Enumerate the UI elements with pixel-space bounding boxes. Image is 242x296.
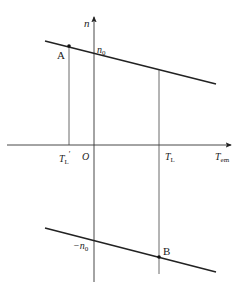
point-a-label: A: [57, 49, 65, 61]
minus-n0-label: −n0: [73, 240, 89, 253]
point-a-marker: [67, 44, 71, 48]
origin-label: O: [82, 151, 89, 162]
lower-characteristic-line: [45, 228, 216, 272]
upper-characteristic-line: [45, 41, 216, 84]
tl-prime-label: TL′: [59, 150, 71, 166]
diagram-svg: n n0 A TL′ O TL Tem −n0 B: [0, 0, 242, 296]
x-axis-label: Tem: [215, 151, 230, 164]
point-b-label: B: [163, 245, 170, 257]
point-b-marker: [157, 255, 161, 259]
y-axis-label: n: [84, 17, 90, 29]
tl-label: TL: [165, 151, 175, 164]
speed-torque-diagram: n n0 A TL′ O TL Tem −n0 B: [0, 0, 242, 296]
